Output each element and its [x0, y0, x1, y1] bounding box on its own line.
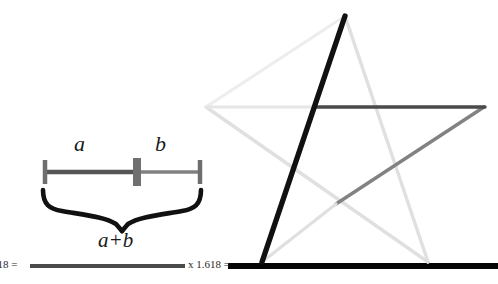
- pentagram-edge-left-to-bottom-right: [206, 107, 428, 262]
- curly-brace-icon: [43, 190, 201, 231]
- label-b: b: [155, 133, 166, 155]
- pentagram-edge-left-to-top: [206, 16, 345, 107]
- multiplier-label-left: 618 =: [0, 259, 17, 270]
- golden-ratio-figure: a b a+b 618 = x 1.618 =: [0, 0, 498, 284]
- pentagram-edge-right-to-bottom-left: [336, 107, 484, 204]
- segment-measure-bar: [45, 158, 200, 186]
- multiplier-label-right: x 1.618 =: [188, 259, 230, 270]
- pentagram-edge-top-to-bottom-left: [262, 16, 345, 262]
- pentagram-figure: [206, 16, 485, 262]
- segment-mid-tick-icon: [133, 158, 141, 186]
- label-a-plus-b: a+b: [98, 230, 133, 251]
- pentagram-edge-top-to-bottom-right: [345, 16, 428, 262]
- label-a: a: [74, 133, 85, 155]
